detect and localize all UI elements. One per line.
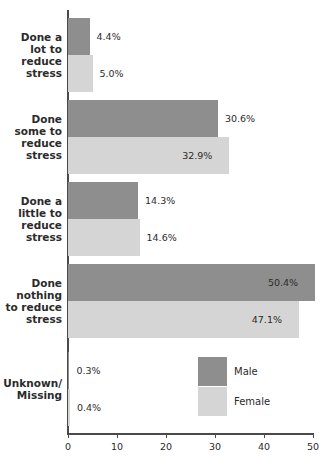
category-label-line: stress <box>0 313 62 325</box>
bar-chart: 01020304050 Done alot toreducestress4.4%… <box>0 0 325 466</box>
chart-category-group: Done alot toreducestress4.4%5.0% <box>0 18 325 92</box>
category-label-line: stress <box>0 149 62 161</box>
bar-value-label: 50.4% <box>268 277 298 288</box>
category-label-line: stress <box>0 231 62 243</box>
bar-value-label: 0.3% <box>76 365 100 376</box>
bar-value-label: 32.9% <box>182 150 212 161</box>
category-label-line: Done a <box>0 31 62 43</box>
bar-male <box>68 100 218 137</box>
bar-value-label: 14.3% <box>145 195 175 206</box>
category-label: Unknown/Missing <box>0 377 62 401</box>
legend-label-male: Male <box>234 366 258 377</box>
x-axis-tick-label: 30 <box>209 441 221 452</box>
bar-female <box>68 389 70 426</box>
x-axis-tick-label: 10 <box>111 441 123 452</box>
x-axis-line <box>67 433 313 435</box>
category-label-line: Done <box>0 113 62 125</box>
category-label-line: Done <box>0 277 62 289</box>
legend-swatch-female-icon <box>198 387 227 416</box>
bar-female <box>68 55 93 92</box>
x-axis-tick <box>68 433 69 438</box>
x-axis-tick-label: 50 <box>307 441 319 452</box>
category-label-line: reduce <box>0 137 62 149</box>
x-axis-tick <box>313 433 314 438</box>
bar-value-label: 47.1% <box>252 314 282 325</box>
bar-value-label: 14.6% <box>147 232 177 243</box>
bar-male <box>68 182 138 219</box>
bar-value-label: 4.4% <box>97 31 121 42</box>
x-axis-tick <box>117 433 118 438</box>
x-axis-tick-label: 20 <box>160 441 172 452</box>
category-label: Donenothingto reducestress <box>0 277 62 326</box>
bar-value-label: 30.6% <box>225 113 255 124</box>
category-label-line: nothing <box>0 289 62 301</box>
bar-male <box>68 18 90 55</box>
category-label-line: little to <box>0 207 62 219</box>
category-label: Done alittle toreducestress <box>0 195 62 244</box>
x-axis-tick-label: 0 <box>65 441 71 452</box>
x-axis-tick <box>166 433 167 438</box>
legend-label-female: Female <box>234 396 270 407</box>
category-label-line: to reduce <box>0 301 62 313</box>
bar-value-label: 0.4% <box>77 402 101 413</box>
x-axis-tick <box>264 433 265 438</box>
x-axis-tick <box>215 433 216 438</box>
chart-category-group: Donesome toreducestress30.6%32.9% <box>0 100 325 174</box>
bar-female <box>68 219 140 256</box>
category-label-line: reduce <box>0 55 62 67</box>
legend-swatch-male-icon <box>198 357 227 386</box>
bar-value-label: 5.0% <box>100 68 124 79</box>
category-label-line: Unknown/ <box>0 377 62 389</box>
category-label-line: lot to <box>0 43 62 55</box>
category-label-line: reduce <box>0 219 62 231</box>
category-label-line: Missing <box>0 389 62 401</box>
category-label-line: stress <box>0 67 62 79</box>
category-label: Done alot toreducestress <box>0 31 62 80</box>
category-label: Donesome toreducestress <box>0 113 62 162</box>
chart-category-group: Done alittle toreducestress14.3%14.6% <box>0 182 325 256</box>
category-label-line: some to <box>0 125 62 137</box>
chart-category-group: Unknown/Missing0.3%0.4% <box>0 352 325 426</box>
category-label-line: Done a <box>0 195 62 207</box>
chart-category-group: Donenothingto reducestress50.4%47.1% <box>0 264 325 338</box>
x-axis-tick-label: 40 <box>258 441 270 452</box>
bar-male <box>68 352 69 389</box>
